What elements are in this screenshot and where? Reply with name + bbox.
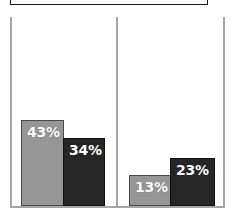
- bar-value-label: 13%: [135, 179, 168, 195]
- bar-value-label: 23%: [176, 162, 209, 178]
- axis-line-left: [10, 17, 12, 208]
- bar-group1-series2[interactable]: 34%: [63, 138, 105, 206]
- axis-baseline: [10, 206, 225, 208]
- bar-group1-series1[interactable]: 43%: [21, 120, 64, 206]
- bar-group2-series2[interactable]: 23%: [170, 158, 215, 206]
- bar-value-label: 43%: [27, 124, 60, 140]
- axis-line-divider: [116, 17, 118, 208]
- axis-line-right: [223, 17, 225, 208]
- bar-group2-series1[interactable]: 13%: [129, 175, 171, 206]
- legend-box-bottom-edge: [10, 0, 208, 5]
- bar-value-label: 34%: [69, 142, 102, 158]
- bar-chart: 43% 34% 13% 23%: [0, 0, 232, 214]
